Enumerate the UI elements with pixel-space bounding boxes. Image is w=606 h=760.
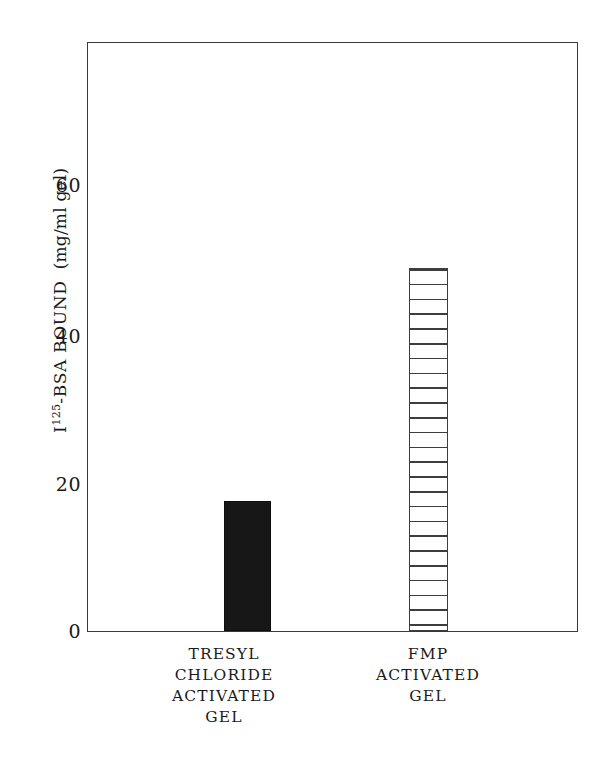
category-label-fmp-line1: FMP xyxy=(368,644,488,665)
y-tick-label-20-wrap: 20 xyxy=(5,475,81,494)
y-axis-title: I125-BSA BOUND (mg/ml gel) xyxy=(50,90,71,510)
y-tick-label-60-wrap: 60 xyxy=(5,176,81,195)
y-tick-label-0-wrap: 0 xyxy=(5,622,81,641)
category-label-tresyl-line4: GEL xyxy=(164,707,284,728)
plot-area xyxy=(87,42,578,632)
y-tick-label-40-wrap: 40 xyxy=(5,327,81,346)
category-label-tresyl-line2: CHLORIDE xyxy=(164,665,284,686)
category-label-tresyl-line3: ACTIVATED xyxy=(164,686,284,707)
y-axis-title-superscript: 125 xyxy=(50,404,63,426)
category-label-tresyl-line1: TRESYL xyxy=(164,644,284,665)
bar-tresyl-chloride-activated-gel xyxy=(224,501,271,631)
category-label-tresyl: TRESYL CHLORIDE ACTIVATED GEL xyxy=(164,644,284,728)
y-tick-label-40: 40 xyxy=(56,327,81,346)
bar-chart-figure: I125-BSA BOUND (mg/ml gel) 0 20 40 60 TR… xyxy=(0,0,606,760)
y-tick-label-0: 0 xyxy=(68,622,81,641)
y-tick-label-20: 20 xyxy=(56,475,81,494)
category-label-fmp-line3: GEL xyxy=(368,686,488,707)
category-label-fmp-line2: ACTIVATED xyxy=(368,665,488,686)
bar-fmp-activated-gel xyxy=(409,268,448,631)
y-tick-label-60: 60 xyxy=(56,176,81,195)
y-axis-title-base: I xyxy=(50,426,70,433)
category-label-fmp: FMP ACTIVATED GEL xyxy=(368,644,488,707)
